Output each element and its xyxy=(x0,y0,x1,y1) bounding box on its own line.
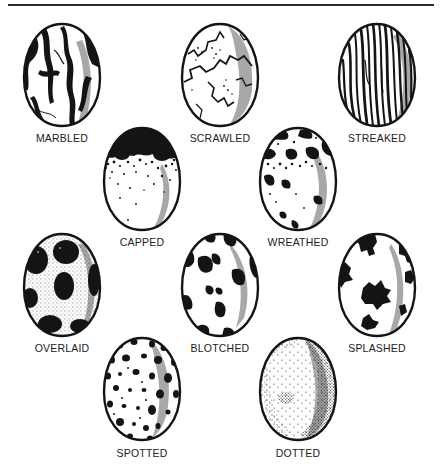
label-spotted: SPOTTED xyxy=(82,447,202,459)
egg-blotched xyxy=(178,230,262,340)
top-rule-divider xyxy=(8,4,434,6)
egg-splashed xyxy=(335,230,419,340)
wreathed-egg-icon xyxy=(256,124,340,234)
egg-streaked xyxy=(335,20,419,130)
spotted-egg-icon xyxy=(100,334,184,444)
blotched-egg-icon xyxy=(178,230,262,340)
egg-scrawled xyxy=(178,20,262,130)
egg-overlaid xyxy=(20,230,104,340)
egg-marbled xyxy=(20,20,104,130)
egg-wreathed xyxy=(256,124,340,234)
label-dotted: DOTTED xyxy=(238,447,358,459)
egg-spotted xyxy=(100,334,184,444)
splashed-egg-icon xyxy=(335,230,419,340)
egg-dotted xyxy=(256,334,340,444)
capped-egg-icon xyxy=(100,124,184,234)
egg-capped xyxy=(100,124,184,234)
marbled-egg-icon xyxy=(20,20,104,130)
scrawled-egg-icon xyxy=(178,20,262,130)
dotted-egg-icon xyxy=(256,334,340,444)
overlaid-egg-icon xyxy=(20,230,104,340)
streaked-egg-icon xyxy=(335,20,419,130)
